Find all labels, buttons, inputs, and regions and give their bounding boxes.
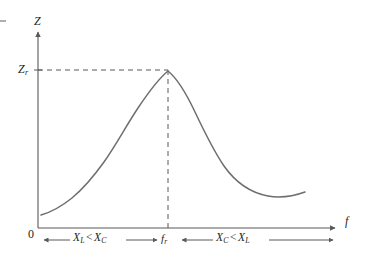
origin-label-text: 0 xyxy=(28,227,34,241)
x-axis-label: f xyxy=(345,215,348,227)
zr-label: Zr xyxy=(18,63,28,77)
right-range-term-2: X xyxy=(238,231,245,243)
y-axis-label: Z xyxy=(34,15,41,27)
fr-label-subscript: r xyxy=(164,237,167,246)
figure-canvas xyxy=(0,0,365,260)
right-range-sub-2: L xyxy=(245,236,250,245)
right-range-label: XC<XL xyxy=(216,232,250,245)
left-range-sub-2: C xyxy=(101,236,106,245)
left-range-sub-1: L xyxy=(80,236,85,245)
resonance-curve-figure: Z Zr 0 f fr XL<XC XC<XL xyxy=(0,0,365,260)
fr-label: fr xyxy=(161,233,167,246)
y-axis-label-text: Z xyxy=(34,14,41,28)
left-range-operator: < xyxy=(85,231,95,243)
x-axis-label-text: f xyxy=(345,214,348,228)
right-range-term-1: X xyxy=(216,231,223,243)
zr-label-subscript: r xyxy=(25,68,28,77)
resonance-curve xyxy=(41,71,305,215)
left-range-term-1: X xyxy=(73,231,80,243)
origin-label: 0 xyxy=(28,228,34,240)
left-range-label: XL<XC xyxy=(73,232,107,245)
zr-label-base: Z xyxy=(18,62,25,76)
right-range-operator: < xyxy=(228,231,238,243)
